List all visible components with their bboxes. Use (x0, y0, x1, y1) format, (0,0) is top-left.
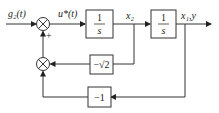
state-x2-signal: x₂ (113, 10, 150, 64)
svg-text:1: 1 (161, 12, 166, 23)
svg-text:−√2: −√2 (93, 59, 109, 70)
summing-junction-1: + (37, 18, 53, 42)
gain-block-sqrt2: −√2 (90, 55, 113, 74)
svg-text:s: s (162, 25, 166, 36)
gain-block-minus-one: −1 (88, 87, 111, 107)
block-diagram: g₂(t) + u*(t) 1 s x₂ 1 s x₁,y (0, 0, 219, 113)
integrator-block-1: 1 s (86, 10, 113, 38)
input-label: g₂(t) (8, 8, 27, 20)
x2-label: x₂ (125, 10, 134, 21)
output-label: x₁,y (180, 10, 196, 21)
svg-text:s: s (98, 25, 102, 36)
input-signal: g₂(t) (6, 8, 36, 24)
feedback-minus-one-line (43, 72, 88, 98)
control-signal: u*(t) (50, 8, 86, 24)
svg-text:1: 1 (97, 12, 102, 23)
svg-text:−1: −1 (94, 92, 105, 103)
integrator-block-2: 1 s (151, 10, 176, 38)
summing-junction-2 (37, 58, 50, 71)
control-label: u*(t) (58, 8, 78, 20)
plus-sign: + (46, 30, 52, 41)
